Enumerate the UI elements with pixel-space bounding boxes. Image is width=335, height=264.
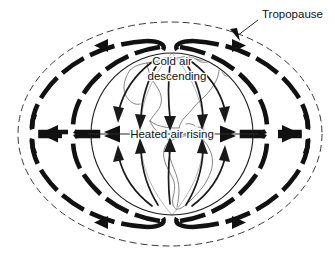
diagram-canvas: Tropopause Cold air descending Heated ai…	[0, 0, 335, 264]
label-tropopause: Tropopause	[262, 8, 323, 20]
label-cold-air-line2: descending	[148, 70, 207, 82]
circulation-diagram: Tropopause Cold air descending Heated ai…	[0, 0, 335, 264]
label-heated-air-rising: Heated air rising	[130, 128, 214, 140]
label-cold-air-line1: Cold air	[152, 55, 192, 67]
